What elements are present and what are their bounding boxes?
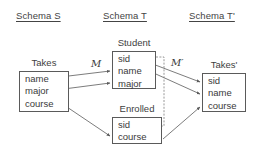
schema-header-source: Schema S	[16, 10, 61, 21]
attribute-takes-course[interactable]: course	[25, 98, 69, 110]
entity-takes-attributes: name major course	[19, 71, 69, 112]
attribute-student-name[interactable]: name	[118, 65, 156, 77]
schema-header-target: Schema T	[103, 10, 147, 21]
entity-enrolled[interactable]: Enrolled sid course	[112, 117, 162, 144]
schema-header-target-prime: Schema T'	[189, 10, 235, 21]
attribute-student-major[interactable]: major	[118, 78, 156, 90]
mapping-label-m: M	[91, 58, 101, 69]
attribute-takes-name[interactable]: name	[25, 73, 69, 85]
attribute-takes-prime-sid[interactable]: sid	[208, 75, 246, 87]
entity-student[interactable]: Student sid name major	[112, 51, 156, 89]
mapping-label-m-prime: M′	[171, 57, 184, 68]
attribute-takes-prime-course[interactable]: course	[208, 100, 246, 112]
entity-enrolled-attributes: sid course	[112, 117, 162, 144]
entity-takes[interactable]: Takes name major course	[19, 71, 69, 112]
entity-takes-prime-attributes: sid name course	[202, 73, 246, 112]
schema-mapping-diagram: Schema S Schema T Schema T' Takes name m…	[0, 0, 259, 151]
attribute-enrolled-course[interactable]: course	[118, 131, 162, 143]
edge-enrolled-course-to-takesprime-course	[163, 107, 200, 139]
entity-takes-prime[interactable]: Takes' sid name course	[202, 73, 246, 112]
entity-student-title: Student	[112, 37, 156, 49]
entity-enrolled-title: Enrolled	[112, 103, 162, 115]
entity-takes-prime-title: Takes'	[202, 59, 246, 71]
attribute-enrolled-sid[interactable]: sid	[118, 119, 162, 131]
entity-student-attributes: sid name major	[112, 51, 156, 89]
attribute-takes-prime-name[interactable]: name	[208, 87, 246, 99]
attribute-student-sid[interactable]: sid	[118, 53, 156, 65]
entity-takes-title: Takes	[19, 57, 69, 69]
attribute-takes-major[interactable]: major	[25, 85, 69, 97]
